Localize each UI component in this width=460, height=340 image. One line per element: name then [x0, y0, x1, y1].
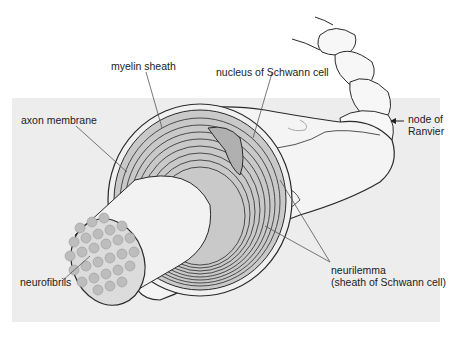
label-node-of-ranvier-line1: node of — [408, 113, 443, 125]
label-axon-membrane: axon membrane — [21, 114, 97, 126]
label-myelin-sheath: myelin sheath — [111, 60, 176, 72]
label-neurofibrils: neurofibrils — [20, 276, 71, 288]
label-neurilemma-line2: (sheath of Schwann cell) — [331, 276, 446, 288]
nerve-fiber-diagram — [0, 0, 460, 340]
label-neurilemma-line1: neurilemma — [331, 264, 386, 276]
label-node-of-ranvier-line2: Ranvier — [408, 125, 444, 137]
label-nucleus-of-schwann-cell: nucleus of Schwann cell — [216, 66, 329, 78]
